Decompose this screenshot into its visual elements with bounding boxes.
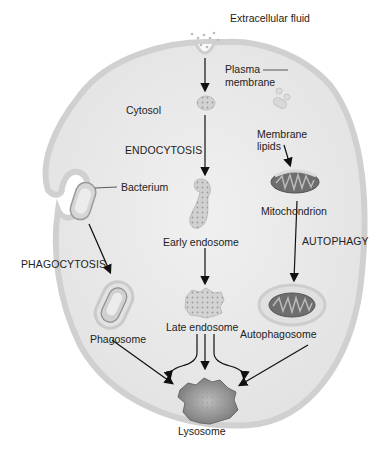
label-plasma-membrane-1: Plasma xyxy=(225,63,260,75)
mitochondrion xyxy=(271,171,319,193)
label-extracellular-fluid: Extracellular fluid xyxy=(230,12,310,24)
diagram-graphics xyxy=(0,0,388,461)
late-endosome xyxy=(185,288,224,318)
label-lysosome: Lysosome xyxy=(178,425,225,437)
label-mitochondrion: Mitochondrion xyxy=(261,205,327,217)
label-membrane-lipids-2: lipids xyxy=(257,140,281,152)
label-autophagosome: Autophagosome xyxy=(240,328,316,340)
label-plasma-membrane-2: membrane xyxy=(225,76,275,88)
label-autophagy: AUTOPHAGY xyxy=(302,235,369,247)
label-phagocytosis: PHAGOCYTOSIS xyxy=(21,258,106,270)
cell-diagram: Extracellular fluid Plasma membrane Cyto… xyxy=(0,0,388,461)
label-late-endosome: Late endosome xyxy=(166,321,238,333)
label-membrane-lipids-1: Membrane xyxy=(257,128,307,140)
label-phagosome: Phagosome xyxy=(90,333,146,345)
autophagosome xyxy=(259,285,325,325)
label-early-endosome: Early endosome xyxy=(163,236,239,248)
label-bacterium: Bacterium xyxy=(121,181,168,193)
label-cytosol: Cytosol xyxy=(126,104,161,116)
label-endocytosis: ENDOCYTOSIS xyxy=(125,144,202,156)
